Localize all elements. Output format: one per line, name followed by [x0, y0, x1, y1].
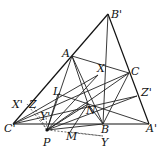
label-l: L: [52, 85, 60, 98]
solid-segments: [13, 14, 149, 132]
geometry-diagram: B'ACXLZ'X'ZNY'C'BA'PMY: [0, 0, 161, 151]
segment-x-p: [47, 75, 98, 130]
label-z-prime: Z': [140, 86, 152, 99]
label-x-prime: X': [11, 98, 23, 111]
label-b-prime: B': [110, 8, 122, 21]
point-labels: B'ACXLZ'X'ZNY'C'BA'PMY: [4, 8, 157, 149]
label-c: C: [131, 65, 140, 78]
label-n: N: [85, 104, 96, 117]
segment-c-p: [47, 73, 129, 130]
label-x: X: [96, 62, 106, 75]
point-p-dot: [45, 128, 48, 131]
label-a-prime: A': [145, 122, 157, 135]
label-z: Z: [28, 98, 37, 111]
label-p: P: [42, 136, 51, 149]
label-c-prime: C': [4, 122, 15, 135]
label-y-prime: Y': [40, 110, 50, 123]
label-b: B: [100, 123, 109, 136]
label-y: Y: [101, 136, 110, 149]
label-a: A: [61, 47, 70, 60]
label-m: M: [65, 130, 78, 143]
points: [45, 128, 48, 131]
